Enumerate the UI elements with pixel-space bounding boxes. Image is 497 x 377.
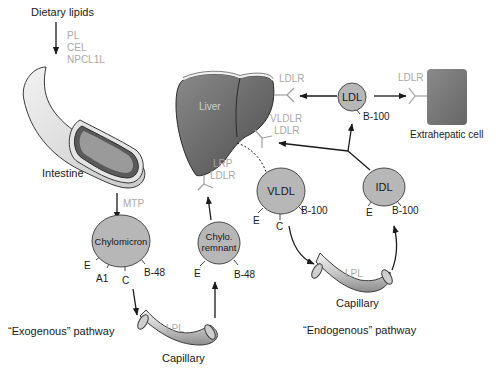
enzyme-cel: CEL	[67, 42, 87, 53]
chylomicron-apo-a1: A1	[96, 273, 109, 284]
chylo-remnant-label-1: Chylo.	[206, 231, 233, 242]
chylomicron-apo-e: E	[84, 260, 91, 271]
extrahepatic-cell-label: Extrahepatic cell	[410, 129, 483, 140]
liver-lrp-label: LRP	[213, 158, 233, 169]
idl-to-ldl-arrow	[348, 124, 352, 151]
enzyme-pl: PL	[67, 30, 80, 41]
endogenous-capillary-label: Capillary	[336, 297, 379, 309]
lipoprotein-pathway-diagram: Dietary lipids PL CEL NPCL1L Intestine M…	[0, 0, 497, 377]
liver-label: Liver	[199, 101, 221, 112]
vldl-label: VLDL	[267, 185, 295, 197]
capillary-to-idl-arrow	[392, 226, 396, 270]
chylo-remnant-apo-e: E	[194, 268, 201, 279]
idl-apo-b100: B-100	[392, 205, 419, 216]
chylo-remnant-apo-b48: B-48	[234, 269, 256, 280]
ldl-apo-b100: B-100	[363, 111, 390, 122]
idl-apo-e: E	[366, 207, 373, 218]
idl-branch-stem	[348, 151, 370, 170]
liver-vldlr-receptor	[255, 130, 272, 148]
exogenous-capillary-label: Capillary	[162, 352, 205, 364]
liver-ldlr-label-2: LDLR	[274, 125, 300, 136]
liver-ldlr-label: LDLR	[279, 73, 305, 84]
endogenous-lpl-label: LPL	[345, 268, 363, 279]
endogenous-pathway-label: “Endogenous” pathway	[303, 324, 417, 336]
chylo-remnant-label-2: remnant	[202, 242, 237, 253]
exogenous-pathway-label: “Exogenous” pathway	[8, 325, 115, 337]
chylomicron-to-capillary-arrow	[133, 289, 137, 315]
dietary-lipids-label: Dietary lipids	[31, 6, 94, 18]
remnant-to-liver-arrow	[208, 197, 211, 220]
intestine-label: Intestine	[42, 167, 84, 179]
idl-label: IDL	[375, 181, 392, 193]
exogenous-lpl-label: LPL	[166, 323, 184, 334]
extrahepatic-ldlr-label: LDLR	[398, 72, 424, 83]
idl-to-liver-arrow	[279, 143, 348, 151]
extrahepatic-cell-shape	[427, 69, 467, 125]
vldl-apo-c: C	[276, 221, 283, 232]
liver-ldlr-label-3: LDLR	[210, 170, 236, 181]
vldl-apo-e: E	[253, 215, 260, 226]
vldl-to-capillary-arrow	[289, 226, 314, 264]
chylomicron-apo-c: C	[122, 275, 129, 286]
mtp-label: MTP	[123, 198, 144, 209]
chylomicron-label: Chylomicron	[95, 236, 148, 247]
liver-vldlr-label: VLDLR	[270, 113, 302, 124]
extrahepatic-ldlr-receptor	[409, 88, 427, 104]
liver-ldlr-receptor	[274, 88, 294, 102]
vldl-apo-b100: B-100	[301, 205, 328, 216]
enzyme-npcl1l: NPCL1L	[67, 54, 105, 65]
chylomicron-apo-b48: B-48	[144, 267, 166, 278]
ldl-label: LDL	[342, 91, 362, 103]
